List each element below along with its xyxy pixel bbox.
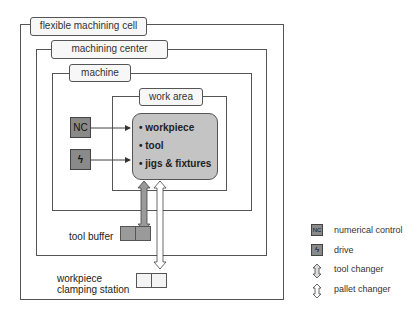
tool-buffer-label: tool buffer xyxy=(69,231,113,242)
tool-changer-icon xyxy=(311,263,323,279)
legend-pallet-changer: pallet changer xyxy=(334,284,391,294)
clamping-label-1: workpiece xyxy=(57,273,102,284)
legend-tool-changer: tool changer xyxy=(334,264,384,274)
nc-icon: NC xyxy=(311,224,323,236)
pallet-changer-icon xyxy=(311,283,323,299)
pallet-changer-arrow xyxy=(154,181,166,269)
drive-icon-legend: ϟ xyxy=(311,244,323,256)
legend-drive: drive xyxy=(334,245,354,255)
legend-nc: numerical control xyxy=(334,225,403,235)
clamping-label-2: clamping station xyxy=(57,284,129,295)
clamping-station xyxy=(136,273,167,288)
tool-changer-arrow xyxy=(138,181,150,231)
tool-buffer xyxy=(120,226,151,241)
